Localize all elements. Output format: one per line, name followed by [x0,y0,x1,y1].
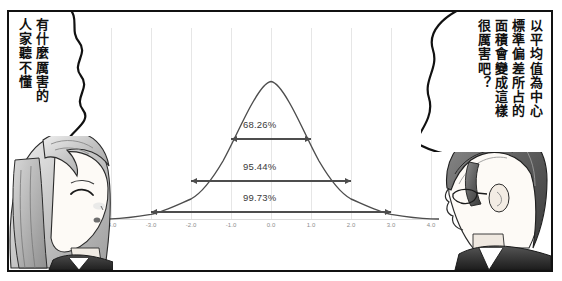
x-tick-label-7: 3.0 [387,222,396,228]
uniform [455,246,551,270]
blush [93,203,105,210]
x-tick-label-5: 1.0 [307,222,316,228]
x-tick-label-2: -2.0 [186,222,197,228]
chart-plot-svg [101,26,441,238]
manga-panel: 68.26% 95.44% 99.73% -4.0 -3.0 -2.0 -1.0… [7,10,553,272]
sigma3-label: 99.73% [243,192,276,203]
speech-bubble-left-text: 有什麼厲害的 人家聽不懂 [16,18,50,126]
x-tick-label-6: 2.0 [347,222,356,228]
ear [489,184,509,212]
comic-panel-screenshot: 68.26% 95.44% 99.73% -4.0 -3.0 -2.0 -1.0… [0,0,562,281]
x-tick-label-4: 0.0 [267,222,276,228]
x-tick-label-3: -1.0 [226,222,237,228]
mouth [94,217,101,222]
speech-bubble-left: 有什麼厲害的 人家聽不懂 [7,10,91,136]
sigma2-arrow-right [345,178,351,184]
x-tick-label-1: -3.0 [146,222,157,228]
speech-bubble-right: 以平均值為中心 標準偏差所占的 面積會變成這樣 很厲害吧？ [421,10,553,152]
sigma1-arrow-right [305,136,311,142]
sigma1-label: 68.26% [243,119,276,130]
sigma2-label: 95.44% [243,161,276,172]
speech-bubble-right-text: 以平均值為中心 標準偏差所占的 面積會變成這樣 很厲害吧？ [475,19,544,141]
normal-distribution-chart: 68.26% 95.44% 99.73% -4.0 -3.0 -2.0 -1.0… [101,26,441,238]
